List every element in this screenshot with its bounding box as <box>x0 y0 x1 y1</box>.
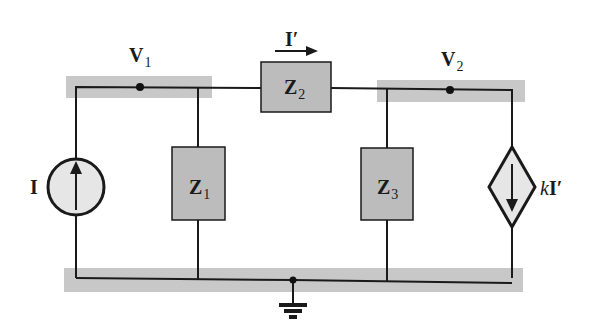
circuit-diagram: I Z1 Z2 Z3 kI′ I′ V1 V2 <box>0 0 593 330</box>
dependent-current-source <box>489 147 535 227</box>
current-source <box>48 159 104 215</box>
current-source-label: I <box>30 176 38 198</box>
node-dot-v2 <box>446 86 454 94</box>
dependent-source-label: kI′ <box>540 177 562 199</box>
branch-current-label: I′ <box>285 28 298 50</box>
node-label-v2: V2 <box>441 48 463 74</box>
node-dot-v1 <box>136 83 144 91</box>
ground-icon <box>279 303 307 319</box>
node-dot-ground <box>290 277 297 284</box>
node-label-v1: V1 <box>129 44 151 70</box>
